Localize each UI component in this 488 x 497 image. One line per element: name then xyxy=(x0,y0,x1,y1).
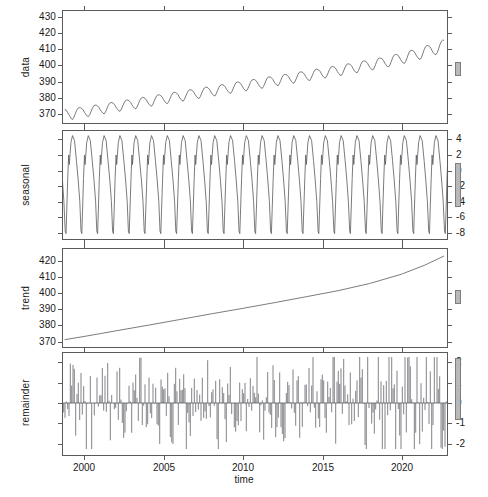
y-tick-right-data xyxy=(448,114,452,115)
y-tick-label-seasonal: 2 xyxy=(456,149,488,160)
y-tick-label-trend: 370 xyxy=(14,336,56,347)
x-tick-top xyxy=(243,244,244,248)
y-tick-label-trend: 400 xyxy=(14,287,56,298)
plot-frame-remainder xyxy=(62,352,448,456)
y-axis-label-seasonal: seasonal xyxy=(19,163,33,207)
y-tick-label-data: 390 xyxy=(14,76,56,87)
y-tick-right-remainder xyxy=(448,444,452,445)
y-tick-right-trend xyxy=(448,309,452,310)
y-tick-seasonal xyxy=(58,139,62,140)
x-axis-label: time xyxy=(0,474,488,485)
scale-bar-seasonal xyxy=(455,163,461,207)
x-tick-top xyxy=(164,6,165,10)
x-tick-top xyxy=(323,6,324,10)
y-tick-label-data: 410 xyxy=(14,43,56,54)
y-tick-right-data xyxy=(448,33,452,34)
y-tick-trend xyxy=(58,261,62,262)
x-tick-top xyxy=(243,6,244,10)
x-tick-top xyxy=(164,126,165,130)
x-tick-top xyxy=(323,126,324,130)
y-tick-remainder xyxy=(58,362,62,363)
y-tick-right-seasonal xyxy=(448,202,452,203)
y-tick-remainder xyxy=(58,403,62,404)
y-tick-label-seasonal: 4 xyxy=(456,133,488,144)
x-tick-label: 2020 xyxy=(372,462,432,473)
y-tick-right-seasonal xyxy=(448,171,452,172)
x-tick xyxy=(164,456,165,460)
x-tick-top xyxy=(164,348,165,352)
y-tick-seasonal xyxy=(58,171,62,172)
x-tick-top xyxy=(323,348,324,352)
y-tick-right-seasonal xyxy=(448,217,452,218)
x-tick-label: 2010 xyxy=(213,462,273,473)
x-tick-top xyxy=(402,244,403,248)
y-tick-seasonal xyxy=(58,233,62,234)
x-tick-label: 2000 xyxy=(54,462,114,473)
x-tick xyxy=(243,456,244,460)
y-tick-right-remainder xyxy=(448,362,452,363)
series-seasonal xyxy=(63,131,447,239)
y-tick-right-data xyxy=(448,82,452,83)
y-tick-trend xyxy=(58,342,62,343)
y-tick-remainder xyxy=(58,444,62,445)
x-tick-top xyxy=(84,6,85,10)
x-tick-label: 2015 xyxy=(293,462,353,473)
series-data xyxy=(63,11,447,123)
y-tick-trend xyxy=(58,277,62,278)
x-tick-top xyxy=(402,126,403,130)
y-tick-right-data xyxy=(448,65,452,66)
y-tick-remainder xyxy=(58,383,62,384)
series-remainder xyxy=(63,353,447,455)
y-tick-right-seasonal xyxy=(448,139,452,140)
y-tick-right-data xyxy=(448,98,452,99)
x-tick-top xyxy=(323,244,324,248)
y-tick-label-data: 370 xyxy=(14,108,56,119)
y-tick-data xyxy=(58,98,62,99)
y-tick-right-trend xyxy=(448,293,452,294)
y-axis-label-remainder: remainder xyxy=(19,382,33,426)
x-tick-top xyxy=(243,348,244,352)
x-tick xyxy=(323,456,324,460)
y-tick-data xyxy=(58,82,62,83)
y-tick-right-data xyxy=(448,49,452,50)
y-tick-right-seasonal xyxy=(448,155,452,156)
y-tick-data xyxy=(58,65,62,66)
y-tick-right-seasonal xyxy=(448,233,452,234)
y-tick-label-data: 380 xyxy=(14,92,56,103)
y-tick-data xyxy=(58,114,62,115)
y-tick-seasonal xyxy=(58,217,62,218)
y-tick-seasonal xyxy=(58,202,62,203)
y-tick-label-data: 420 xyxy=(14,27,56,38)
x-tick-top xyxy=(243,126,244,130)
scale-bar-remainder xyxy=(455,358,461,420)
y-tick-seasonal xyxy=(58,186,62,187)
plot-frame-data xyxy=(62,10,448,124)
y-tick-seasonal xyxy=(58,155,62,156)
x-tick xyxy=(402,456,403,460)
y-tick-data xyxy=(58,17,62,18)
series-trend xyxy=(63,249,447,347)
y-tick-label-seasonal: -8 xyxy=(456,227,488,238)
y-tick-right-seasonal xyxy=(448,186,452,187)
x-tick-top xyxy=(402,348,403,352)
x-tick xyxy=(84,456,85,460)
y-tick-trend xyxy=(58,309,62,310)
y-tick-right-trend xyxy=(448,261,452,262)
y-tick-trend xyxy=(58,325,62,326)
scale-bar-trend xyxy=(455,290,461,304)
y-tick-trend xyxy=(58,293,62,294)
y-tick-data xyxy=(58,49,62,50)
y-tick-label-trend: 420 xyxy=(14,255,56,266)
x-tick-top xyxy=(84,348,85,352)
x-tick-top xyxy=(164,244,165,248)
y-tick-right-remainder xyxy=(448,383,452,384)
y-tick-label-seasonal: -6 xyxy=(456,211,488,222)
x-tick-top xyxy=(402,6,403,10)
y-tick-right-trend xyxy=(448,277,452,278)
y-tick-label-remainder: -2 xyxy=(456,438,488,449)
y-tick-label-trend: 380 xyxy=(14,319,56,330)
y-tick-label-data: 430 xyxy=(14,11,56,22)
x-tick-label: 2005 xyxy=(134,462,194,473)
y-tick-right-data xyxy=(448,17,452,18)
y-tick-right-trend xyxy=(448,325,452,326)
